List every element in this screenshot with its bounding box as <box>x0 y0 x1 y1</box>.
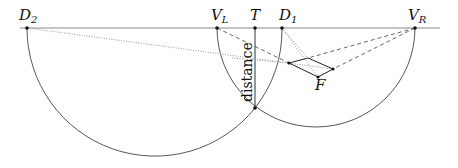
point-vr <box>413 26 417 30</box>
left-circle-arc-upper <box>255 28 282 108</box>
label-vr-sub: R <box>419 14 427 25</box>
dashed-line-vr-1 <box>308 28 415 58</box>
label-d1-main: D <box>279 6 291 24</box>
label-distance: distance <box>240 42 254 102</box>
perspective-diagram <box>0 0 458 168</box>
label-vl: VL <box>211 8 228 25</box>
ground-quadrilateral <box>289 58 333 77</box>
point-q3 <box>331 67 334 70</box>
point-vl <box>215 26 219 30</box>
point-q1 <box>287 61 290 64</box>
point-d1 <box>280 26 284 30</box>
label-t: T <box>250 8 260 23</box>
point-intersection <box>253 106 257 110</box>
label-f: F <box>315 78 325 93</box>
label-vr-main: V <box>408 6 419 24</box>
label-d1: D1 <box>279 8 297 25</box>
label-vl-sub: L <box>222 14 229 25</box>
label-t-main: T <box>250 6 260 24</box>
dotted-line-d1 <box>282 28 318 77</box>
dotted-line-d1-b <box>282 28 308 58</box>
point-t <box>253 26 257 30</box>
label-vr: VR <box>408 8 426 25</box>
left-circle-arc <box>27 28 255 156</box>
label-d2: D2 <box>19 8 37 25</box>
label-vl-main: V <box>211 6 222 24</box>
label-f-main: F <box>315 76 325 94</box>
label-d1-sub: 1 <box>291 14 297 25</box>
point-d2 <box>25 26 29 30</box>
label-d2-main: D <box>19 6 31 24</box>
dashed-line-vr-2 <box>333 28 415 69</box>
label-d2-sub: 2 <box>31 14 37 25</box>
